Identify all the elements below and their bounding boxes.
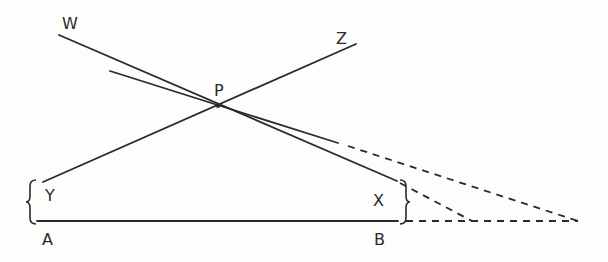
line-tangent-through-P xyxy=(110,71,338,143)
label-W: W xyxy=(62,14,78,33)
diagram-svg: W Z P Y X A B xyxy=(0,0,608,262)
label-B: B xyxy=(374,230,385,249)
label-Y: Y xyxy=(44,186,55,205)
label-Z: Z xyxy=(336,29,347,48)
label-A: A xyxy=(42,230,53,249)
label-X: X xyxy=(373,191,384,210)
geometry-diagram: W Z P Y X A B xyxy=(0,0,608,262)
line-YZ xyxy=(43,44,356,182)
brace-left-icon xyxy=(26,180,36,224)
label-P: P xyxy=(214,81,224,100)
extension-WX-dashed xyxy=(400,183,472,221)
point-P xyxy=(216,104,220,108)
